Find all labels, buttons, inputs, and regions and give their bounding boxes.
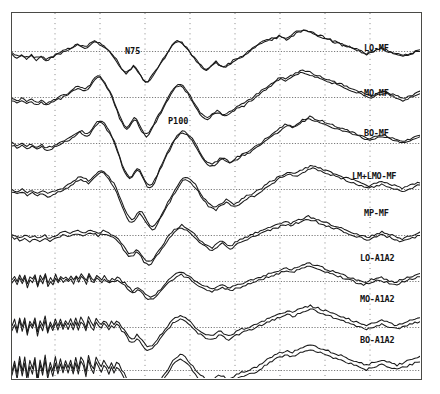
- peak-annotation-n75: N75: [125, 47, 140, 56]
- eeg-trace: [12, 72, 420, 137]
- eeg-trace: [12, 70, 420, 133]
- channel-label-mo-mf: MO-MF: [364, 89, 389, 98]
- eeg-trace: [12, 266, 420, 299]
- vep-figure-root: LO-MFMO-MFBO-MFLM+LMO-MFMP-MFLO-A1A2MO-A…: [0, 0, 440, 394]
- eeg-trace: [12, 30, 420, 82]
- peak-annotation-p100: P100: [168, 117, 188, 126]
- waveform-plot-area: [11, 12, 422, 380]
- channel-label-bo-mf: BO-MF: [364, 129, 389, 138]
- eeg-trace: [12, 305, 420, 347]
- eeg-trace: [12, 219, 420, 265]
- eeg-trace: [12, 263, 420, 298]
- channel-label-mo-a1a2: MO-A1A2: [360, 295, 394, 304]
- channel-label-lm-lmo-mf: LM+LMO-MF: [352, 172, 396, 181]
- waveform-canvas: [12, 13, 420, 378]
- channel-label-bo-a1a2: BO-A1A2: [360, 336, 394, 345]
- eeg-trace: [12, 350, 420, 378]
- channel-label-lo-mf: LO-MF: [364, 44, 389, 53]
- eeg-trace: [12, 309, 420, 351]
- channel-label-lo-a1a2: LO-A1A2: [360, 254, 394, 263]
- eeg-trace: [12, 216, 420, 262]
- channel-label-mp-mf: MP-MF: [364, 209, 389, 218]
- eeg-trace: [12, 30, 420, 82]
